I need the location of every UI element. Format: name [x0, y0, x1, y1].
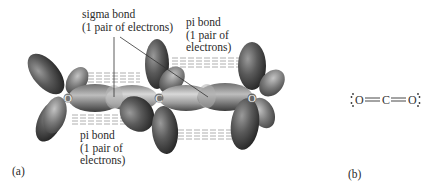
lewis-o-right: O [408, 93, 417, 107]
pi-overlap-dashes-top-right [172, 58, 240, 67]
pi-bond-label-top: pi bond (1 pair of electrons) [186, 16, 231, 54]
pi-bond-top-detail-2: electrons) [186, 41, 231, 54]
lewis-structure: O C O [346, 86, 426, 112]
pi-bond-top-detail-1: (1 pair of [186, 29, 231, 42]
sigma-bond-label: sigma bond (1 pair of electrons) [82, 8, 173, 33]
atom-o-right: O [248, 92, 256, 104]
atom-c: C [155, 92, 162, 104]
pi-bond-bottom-detail-2: electrons) [80, 154, 125, 167]
pi-overlap-dashes-bottom-right [178, 130, 240, 139]
pi-bond-bottom-detail-1: (1 pair of [80, 142, 125, 155]
atom-o-left: O [64, 92, 72, 104]
pi-bond-top-title: pi bond [186, 16, 231, 29]
lewis-c: C [382, 93, 390, 107]
panel-a-label: (a) [12, 165, 25, 178]
pi-bond-bottom-title: pi bond [80, 129, 125, 142]
lewis-o-left: O [355, 93, 364, 107]
sigma-bond-title: sigma bond [82, 8, 173, 21]
sigma-bond-detail: (1 pair of electrons) [82, 21, 173, 34]
pi-overlap-dashes-bottom-left [72, 115, 125, 124]
panel-b-label: (b) [348, 168, 361, 181]
pi-bond-label-bottom: pi bond (1 pair of electrons) [80, 129, 125, 167]
